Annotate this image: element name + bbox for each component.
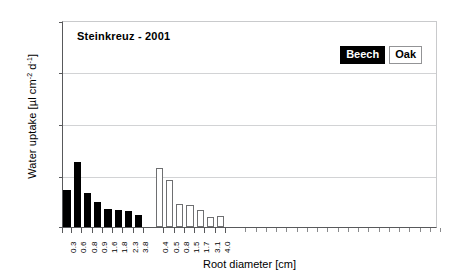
x-tick-label-beech-3.8: 3.8 <box>141 241 150 253</box>
bar-oak-1.5 <box>186 205 193 227</box>
x-tick-label-beech-1.6: 1.6 <box>110 241 119 253</box>
x-axis-title: Root diameter [cm] <box>0 258 461 270</box>
x-tick-label-beech-2.3: 2.3 <box>131 241 140 253</box>
x-tick-label-beech-1.8: 1.8 <box>120 241 129 253</box>
bar-oak-4.0 <box>217 216 224 227</box>
bar-beech-0.3 <box>63 190 70 227</box>
y-axis-title-sup1: -2 <box>26 73 33 79</box>
chart-figure: Water uptake [µl cm-2 d-1] 20 15 10 5 0 … <box>0 0 461 277</box>
x-tick-label-oak-0.5: 0.5 <box>172 241 181 253</box>
bar-oak-3.1 <box>207 217 214 227</box>
x-tick-label-beech-0.3: 0.3 <box>69 241 78 253</box>
bar-beech-1.8 <box>115 210 122 227</box>
bar-beech-3.8 <box>135 215 142 227</box>
bar-oak-1.7 <box>197 210 204 227</box>
y-axis-title-pre: Water uptake [µl cm <box>26 79 38 179</box>
x-tick-label-oak-1.7: 1.7 <box>202 241 211 253</box>
bar-beech-2.3 <box>125 211 132 227</box>
legend-item-oak[interactable]: Oak <box>389 46 422 64</box>
x-tick-label-beech-0.8: 0.8 <box>90 241 99 253</box>
y-axis-title-mid: d <box>26 63 38 72</box>
y-axis-title-post: ] <box>26 54 38 57</box>
x-axis-title-text: Root diameter [cm] <box>165 258 296 270</box>
plot-area: Steinkreuz - 2001 Beech Oak <box>62 21 437 228</box>
bar-oak-0.4 <box>156 168 163 227</box>
x-tick-label-oak-4.0: 4.0 <box>223 241 232 253</box>
bar-beech-0.8 <box>84 193 91 227</box>
legend-item-beech[interactable]: Beech <box>340 46 385 64</box>
bar-beech-1.6 <box>104 209 111 227</box>
x-axis-tick-labels: 0.30.60.80.91.61.82.33.80.40.50.81.51.73… <box>62 231 437 257</box>
bar-oak-0.5 <box>166 180 173 227</box>
legend: Beech Oak <box>340 46 422 64</box>
x-tick-label-oak-0.8: 0.8 <box>182 241 191 253</box>
bar-beech-0.9 <box>94 202 101 227</box>
bar-beech-0.6 <box>74 162 81 227</box>
x-tick-label-oak-0.4: 0.4 <box>161 241 170 253</box>
y-axis-title: Water uptake [µl cm-2 d-1] <box>26 6 39 226</box>
x-tick-label-oak-1.5: 1.5 <box>192 241 201 253</box>
x-tick-mark-empty-19 <box>440 228 441 232</box>
x-tick-label-beech-0.6: 0.6 <box>79 241 88 253</box>
bar-oak-0.8 <box>176 204 183 227</box>
x-tick-label-beech-0.9: 0.9 <box>100 241 109 253</box>
chart-title: Steinkreuz - 2001 <box>77 30 170 42</box>
x-tick-label-oak-3.1: 3.1 <box>213 241 222 253</box>
y-axis-title-sup2: -1 <box>26 57 33 63</box>
